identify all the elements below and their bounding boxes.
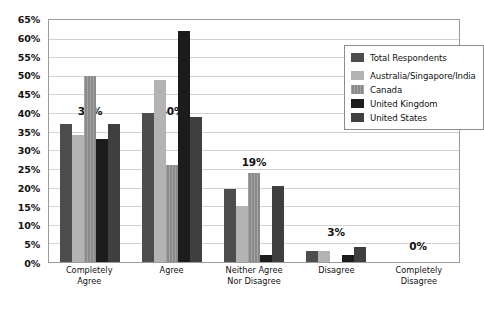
bar-total-respondents [224,189,236,262]
bar-united-states [354,247,366,262]
y-axis-tick: 35% [18,126,40,137]
legend-item-australia-singapore-india[interactable]: Australia/Singapore/India [351,69,476,82]
x-axis-label: Completely Agree [48,265,130,287]
chart-legend: Total Respondents Australia/Singapore/In… [344,45,484,130]
y-axis-tick: 45% [18,89,40,100]
y-axis-tick: 50% [18,70,40,81]
bar-canada [248,173,260,262]
bar-group-neither-agree-nor-disagree: 19% [213,20,295,262]
bar-united-states [272,186,284,262]
x-axis: Completely Agree Agree Neither Agree Nor… [48,265,460,287]
bar-australia-singapore-india [236,206,248,262]
legend-label: Total Respondents [370,53,447,63]
y-axis-tick: 0% [24,258,40,269]
x-axis-label: Neither Agree Nor Disagree [213,265,295,287]
y-axis-tick: 25% [18,164,40,175]
legend-label: Canada [370,85,402,95]
legend-item-total-respondents[interactable]: Total Respondents [351,51,476,64]
bar-group-agree: 40% [131,20,213,262]
legend-swatch-icon [351,85,364,94]
bar-australia-singapore-india [72,135,84,262]
y-axis: 65% 60% 55% 50% 45% 40% 35% 30% 25% 20% … [0,19,44,263]
bar-canada [166,165,178,262]
bar-total-respondents [142,113,154,262]
legend-swatch-icon [351,71,364,80]
legend-item-canada[interactable]: Canada [351,83,476,96]
plot-area: 37% 40% [48,19,460,263]
y-axis-tick: 20% [18,182,40,193]
legend-label: Australia/Singapore/India [370,71,476,81]
bar-united-kingdom [96,139,108,262]
y-axis-tick: 40% [18,107,40,118]
bar-total-respondents [60,124,72,262]
x-axis-label: Completely Disagree [378,265,460,287]
y-axis-tick: 65% [18,14,40,25]
bar-group-completely-agree: 37% [49,20,131,262]
bar-united-kingdom [342,255,354,262]
bar-australia-singapore-india [318,251,330,262]
legend-item-united-states[interactable]: United States [351,111,476,124]
bar-united-kingdom [178,31,190,262]
bar-united-states [108,124,120,262]
bar-total-respondents [306,251,318,262]
x-axis-label: Disagree [295,265,377,287]
x-axis-label: Agree [130,265,212,287]
y-axis-tick: 55% [18,51,40,62]
legend-label: United Kingdom [370,99,438,109]
legend-swatch-icon [351,113,364,122]
bar-united-states [190,117,202,262]
legend-label: United States [370,113,427,123]
bar-canada [84,76,96,262]
y-axis-tick: 15% [18,201,40,212]
bar-australia-singapore-india [154,80,166,262]
legend-swatch-icon [351,99,364,108]
y-axis-tick: 5% [24,239,40,250]
y-axis-tick: 10% [18,220,40,231]
y-axis-tick: 30% [18,145,40,156]
legend-item-united-kingdom[interactable]: United Kingdom [351,97,476,110]
bar-united-kingdom [260,255,272,262]
legend-swatch-icon [351,53,364,62]
y-axis-tick: 60% [18,32,40,43]
